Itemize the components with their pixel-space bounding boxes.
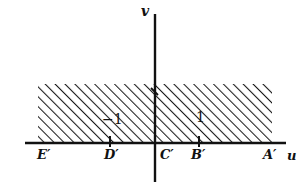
math-figure: v u E′ D′ C′ B′ A′ −1 1	[0, 0, 304, 189]
point-label-a-prime: A′	[263, 148, 277, 161]
u-axis-label: u	[287, 149, 296, 162]
point-label-d-prime: D′	[104, 148, 119, 161]
value-label-one: 1	[196, 110, 205, 124]
point-label-c-prime: C′	[160, 148, 174, 161]
value-label-minus-one: −1	[102, 112, 123, 126]
point-label-b-prime: B′	[191, 148, 205, 161]
v-axis-label: v	[141, 4, 149, 18]
point-label-e-prime: E′	[37, 148, 50, 161]
